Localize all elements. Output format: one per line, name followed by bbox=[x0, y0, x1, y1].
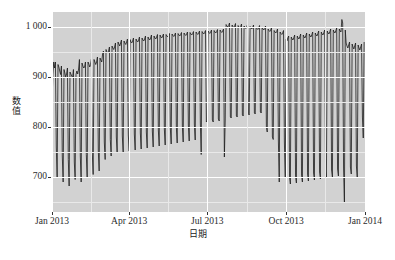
chart-container: 数值 7008009001 000 日期 Jan 2013Apr 2013Jul… bbox=[0, 0, 395, 260]
x-tick-label: Jan 2014 bbox=[348, 216, 382, 227]
x-axis-title-text: 日期 bbox=[189, 229, 207, 239]
y-tick-mark bbox=[48, 77, 51, 78]
y-tick-label: 1 000 bbox=[20, 22, 47, 32]
gridline-minor-horizontal bbox=[52, 202, 365, 203]
gridline-major-horizontal bbox=[52, 127, 365, 128]
x-tick-mark bbox=[129, 212, 130, 215]
gridline-major-vertical bbox=[52, 12, 53, 212]
x-tick-mark bbox=[52, 212, 53, 215]
x-tick-label: Oct 2013 bbox=[269, 216, 304, 227]
gridline-major-vertical bbox=[129, 12, 130, 212]
gridline-minor-horizontal bbox=[52, 102, 365, 103]
gridline-major-vertical bbox=[286, 12, 287, 212]
y-tick-mark bbox=[48, 27, 51, 28]
y-tick-label: 800 bbox=[20, 122, 47, 132]
x-axis-title: 日期 bbox=[0, 229, 395, 240]
y-tick-label: 900 bbox=[20, 72, 47, 82]
x-tick-label: Apr 2013 bbox=[111, 216, 147, 227]
x-tick-mark bbox=[286, 212, 287, 215]
gridline-minor-horizontal bbox=[52, 52, 365, 53]
x-tick-label: Jan 2013 bbox=[35, 216, 69, 227]
gridline-major-horizontal bbox=[52, 177, 365, 178]
gridline-major-horizontal bbox=[52, 27, 365, 28]
x-tick-mark bbox=[365, 212, 366, 215]
plot-panel bbox=[52, 12, 365, 212]
gridline-minor-vertical bbox=[247, 12, 248, 212]
gridline-minor-horizontal bbox=[52, 152, 365, 153]
series-line bbox=[52, 12, 365, 212]
y-tick-label: 700 bbox=[20, 172, 47, 182]
gridline-minor-vertical bbox=[91, 12, 92, 212]
x-tick-label: Jul 2013 bbox=[191, 216, 223, 227]
gridline-minor-vertical bbox=[325, 12, 326, 212]
gridline-major-vertical bbox=[207, 12, 208, 212]
gridline-major-horizontal bbox=[52, 77, 365, 78]
y-tick-mark bbox=[48, 177, 51, 178]
x-tick-mark bbox=[207, 212, 208, 215]
y-tick-mark bbox=[48, 127, 51, 128]
gridline-minor-vertical bbox=[168, 12, 169, 212]
